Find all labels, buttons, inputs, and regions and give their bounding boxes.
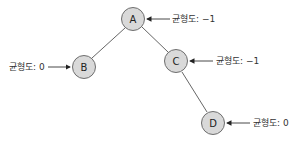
node-d: D xyxy=(202,112,225,135)
balance-label-b: 균형도: 0 xyxy=(9,62,45,72)
svg-text:C: C xyxy=(173,56,180,67)
svg-text:D: D xyxy=(209,118,217,129)
edge-c-d xyxy=(182,72,207,112)
node-b: B xyxy=(73,56,96,79)
svg-text:B: B xyxy=(81,62,88,73)
node-a: A xyxy=(122,8,145,31)
edge-a-b xyxy=(92,28,125,58)
node-c: C xyxy=(165,50,188,73)
tree-diagram: A 균형도: −1 B 균형도: 0 C 균형도: −1 D 균형도: 0 xyxy=(0,0,295,143)
edge-a-c xyxy=(142,27,168,52)
balance-label-a: 균형도: −1 xyxy=(172,14,215,24)
balance-label-c: 균형도: −1 xyxy=(216,56,259,66)
balance-label-d: 균형도: 0 xyxy=(253,118,289,128)
svg-text:A: A xyxy=(130,14,137,25)
